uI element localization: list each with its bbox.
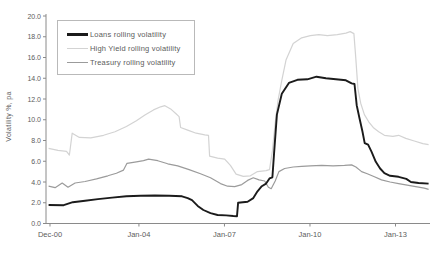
y-tick-label: 2.0	[31, 199, 41, 206]
treasury-series-line	[49, 159, 429, 189]
loans-series-line	[49, 77, 429, 217]
y-tick-label: 14.0	[27, 75, 41, 82]
y-tick-label: 8.0	[31, 137, 41, 144]
y-tick-label: 6.0	[31, 158, 41, 165]
treasury-line-swatch	[67, 62, 88, 63]
x-tick-label: Jan-13	[384, 230, 407, 239]
y-tick-label: 16.0	[27, 54, 41, 61]
y-tick-label: 12.0	[27, 96, 41, 103]
volatility-chart: 0.02.04.06.08.010.012.014.016.018.020.0D…	[0, 0, 442, 258]
y-tick-label: 20.0	[27, 13, 41, 20]
high-yield-line-swatch	[67, 48, 88, 49]
y-tick-label: 0.0	[31, 220, 41, 227]
loans-line-swatch	[67, 33, 88, 36]
legend-label-loans: Loans rolling volatility	[90, 30, 166, 39]
y-tick-label: 10.0	[27, 116, 41, 123]
y-axis-title: Volatility %, pa	[5, 62, 12, 172]
x-tick-label: Jan-10	[299, 230, 322, 239]
x-tick-label: Jan-07	[213, 230, 236, 239]
legend-label-high-yield: High Yield rolling volatility	[90, 44, 180, 53]
legend-label-treasury: Treasury rolling volatility	[90, 58, 176, 67]
y-tick-label: 4.0	[31, 179, 41, 186]
legend-item-loans: Loans rolling volatility	[67, 27, 188, 41]
x-tick-label: Dec-00	[38, 230, 62, 239]
x-tick-label: Jan-04	[127, 230, 150, 239]
y-tick-label: 18.0	[27, 33, 41, 40]
legend-item-high-yield: High Yield rolling volatility	[67, 41, 188, 55]
legend-item-treasury: Treasury rolling volatility	[67, 55, 188, 69]
legend: Loans rolling volatility High Yield roll…	[57, 20, 195, 75]
